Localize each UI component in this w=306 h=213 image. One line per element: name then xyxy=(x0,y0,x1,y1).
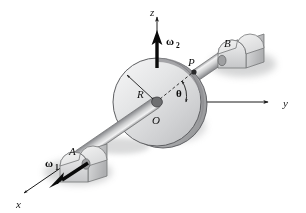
label-omega1-subscript: 1 xyxy=(55,163,59,172)
label-bearing-b: B xyxy=(224,37,231,49)
label-omega1: ω xyxy=(45,157,53,169)
label-bearing-a: A xyxy=(68,145,76,157)
point-p-marker xyxy=(191,69,196,74)
label-point-p: P xyxy=(187,56,195,68)
figure-root: z y x O R P θ A B ω 2 ω 1 xyxy=(0,0,306,213)
bearing-b-bore xyxy=(218,55,226,65)
mechanics-diagram: z y x O R P θ A B ω 2 ω 1 xyxy=(0,0,306,213)
label-axis-y: y xyxy=(282,97,288,109)
label-radius: R xyxy=(136,88,144,100)
label-omega2-subscript: 2 xyxy=(176,41,180,50)
label-omega2: ω xyxy=(166,35,174,47)
label-origin: O xyxy=(152,114,160,126)
label-theta: θ xyxy=(176,87,182,99)
label-axis-x: x xyxy=(15,198,21,210)
label-axis-z: z xyxy=(149,6,155,18)
